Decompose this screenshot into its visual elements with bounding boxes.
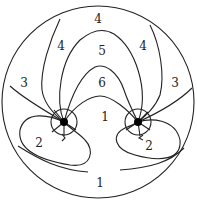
region-label: 1: [96, 176, 104, 190]
region-label: 6: [98, 76, 106, 90]
left-point: [60, 118, 68, 126]
region-label: 2: [35, 136, 43, 150]
region-label: 2: [145, 139, 153, 153]
region-label: 4: [94, 12, 102, 26]
region-label: 1: [101, 110, 109, 124]
right-point: [134, 118, 142, 126]
region-label: 3: [20, 76, 28, 90]
region-label: 4: [57, 39, 65, 53]
flow-diagram: 4 4 5 4 3 6 3 1 2 2 1: [0, 0, 197, 202]
region-label: 4: [139, 39, 147, 53]
curve-2-left: [20, 116, 91, 165]
curve-3-left: [10, 86, 64, 122]
region-label: 5: [98, 44, 106, 58]
curve-3-right: [138, 88, 192, 122]
curve-outer-left: [42, 19, 64, 122]
region-label: 3: [171, 76, 179, 90]
